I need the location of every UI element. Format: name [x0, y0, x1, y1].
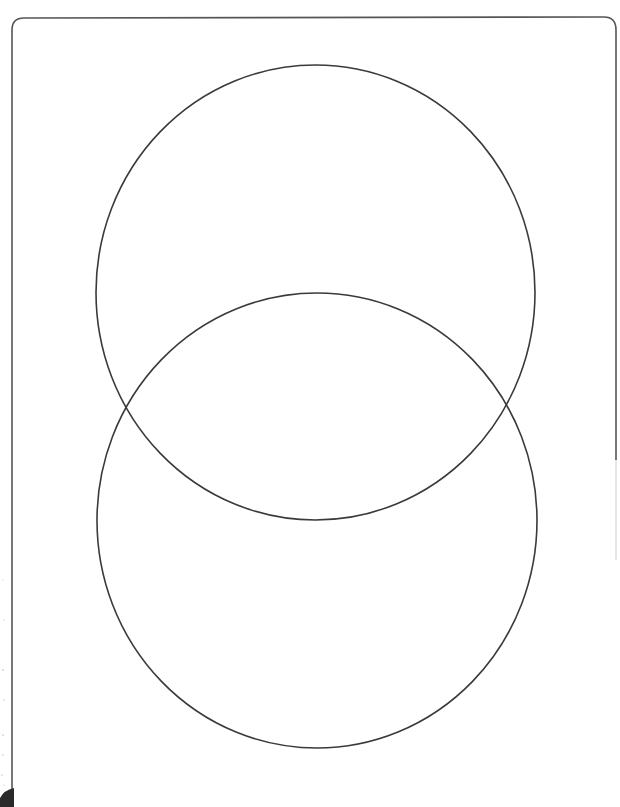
corner-scan-artifact	[0, 788, 14, 807]
venn-diagram-worksheet	[0, 0, 620, 807]
page-frame-border	[12, 17, 616, 807]
venn-diagram	[0, 0, 620, 807]
scan-specks	[1, 579, 4, 785]
